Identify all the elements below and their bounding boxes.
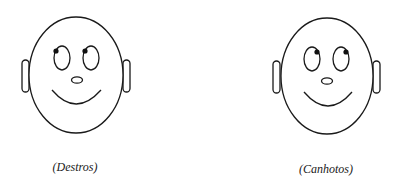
label-destros: (Destros) [53, 160, 98, 175]
head-icon [281, 18, 373, 134]
label-canhotos: (Canhotos) [299, 162, 353, 177]
face-destros [22, 17, 130, 133]
left-ear-icon [22, 60, 29, 92]
right-ear-icon [123, 60, 130, 92]
right-pupil-icon [82, 48, 87, 53]
face-canhotos [273, 18, 380, 134]
left-pupil-icon [314, 49, 319, 54]
left-ear-icon [273, 61, 280, 93]
left-pupil-icon [53, 48, 58, 53]
head-icon [29, 17, 123, 133]
right-ear-icon [373, 61, 380, 93]
right-pupil-icon [343, 49, 348, 54]
